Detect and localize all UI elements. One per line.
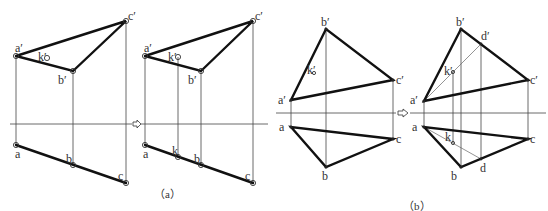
label-c: c bbox=[530, 132, 535, 146]
triangle-front-view bbox=[424, 29, 528, 101]
triangle-top-view bbox=[424, 127, 528, 167]
panel-a-left: a′ b′ c′ k′ a b c bbox=[10, 9, 136, 186]
label-b1: b′ bbox=[188, 73, 197, 87]
label-a: a bbox=[15, 147, 21, 161]
label-a: a bbox=[279, 120, 285, 134]
label-c: c bbox=[118, 169, 123, 183]
triangle-front-view bbox=[145, 21, 253, 71]
caption-b: （b） bbox=[403, 200, 431, 211]
label-b: b bbox=[66, 152, 72, 166]
label-b1: b′ bbox=[58, 73, 67, 87]
point-a1 bbox=[289, 98, 292, 101]
panel-b-right: a′ b′ d′ c′ k′ a k b d c （b） bbox=[403, 15, 546, 211]
label-a1: a′ bbox=[278, 93, 286, 107]
label-a: a bbox=[412, 120, 418, 134]
panel-b-left: a′ b′ c′ k′ a b c bbox=[276, 15, 404, 183]
label-k: k bbox=[172, 144, 178, 158]
point-a1 bbox=[422, 99, 425, 102]
label-k1: k′ bbox=[168, 50, 177, 64]
label-b: b bbox=[451, 169, 457, 183]
label-a1: a′ bbox=[144, 41, 152, 55]
label-k1: k′ bbox=[444, 64, 453, 78]
arrow-a bbox=[133, 120, 141, 128]
label-c1: c′ bbox=[530, 73, 538, 87]
point-c bbox=[391, 137, 394, 140]
point-d bbox=[480, 158, 483, 161]
panel-a-right: a′ k′ b′ c′ a k b c （a） bbox=[141, 9, 268, 200]
label-c1: c′ bbox=[128, 9, 136, 23]
label-c1: c′ bbox=[255, 9, 263, 23]
label-a1: a′ bbox=[15, 41, 23, 55]
right-arrow-icon bbox=[398, 109, 408, 117]
label-k1: k′ bbox=[307, 63, 316, 77]
label-b: b bbox=[322, 169, 328, 183]
label-d1: d′ bbox=[481, 29, 490, 43]
projection-diagram: a′ b′ c′ k′ a b c a′ k′ b′ c′ a k b c （a bbox=[0, 0, 548, 211]
right-arrow-icon bbox=[133, 120, 141, 128]
triangle-front-view bbox=[16, 21, 126, 71]
triangle-top-view bbox=[291, 127, 393, 167]
arrow-b bbox=[398, 109, 408, 117]
label-k: k bbox=[445, 130, 451, 144]
point-d1 bbox=[480, 43, 483, 46]
label-c: c bbox=[396, 132, 401, 146]
point-b bbox=[459, 165, 462, 168]
caption-a: （a） bbox=[154, 188, 181, 200]
label-b1: b′ bbox=[321, 15, 330, 29]
label-b: b bbox=[194, 152, 200, 166]
point-c1 bbox=[391, 78, 394, 81]
label-c1: c′ bbox=[396, 73, 404, 87]
label-a1: a′ bbox=[410, 93, 418, 107]
label-c: c bbox=[245, 169, 250, 183]
label-k1: k′ bbox=[38, 50, 47, 64]
label-b1: b′ bbox=[456, 15, 465, 29]
label-a: a bbox=[143, 147, 149, 161]
point-a bbox=[289, 125, 292, 128]
point-a bbox=[422, 125, 425, 128]
label-d: d bbox=[480, 161, 486, 175]
